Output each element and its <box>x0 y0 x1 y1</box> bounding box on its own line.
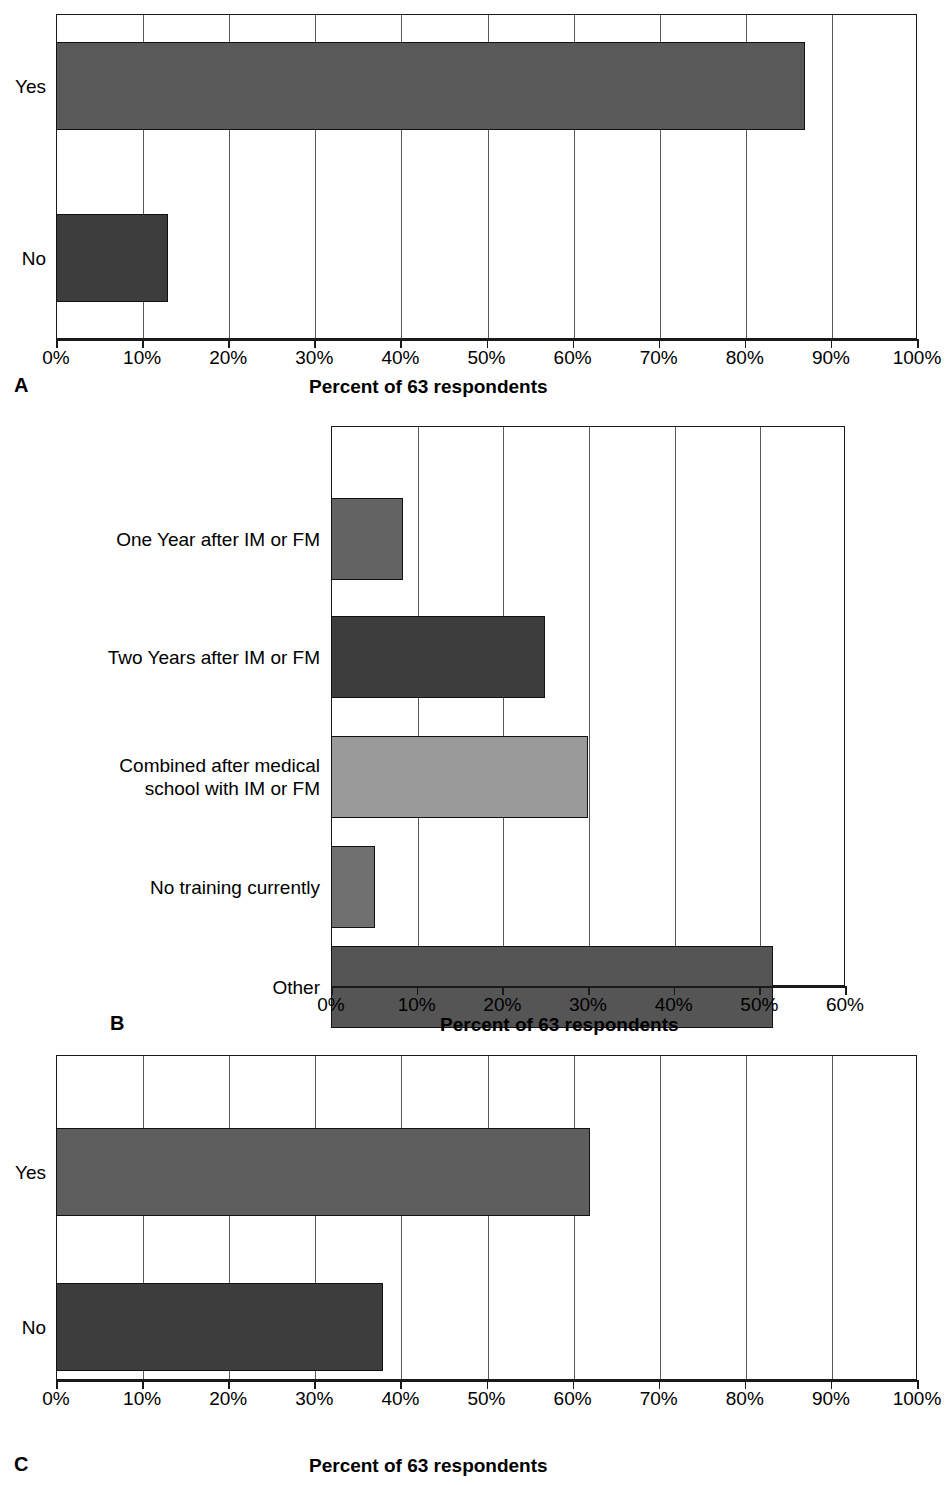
category-label: Other <box>60 976 320 999</box>
figure-bar-charts: YesNo 0%10%20%30%40%50%60%70%80%90%100% … <box>0 0 949 1485</box>
category-label: No <box>0 247 46 270</box>
x-axis-tick-label: 0% <box>317 994 344 1016</box>
bar <box>331 736 588 818</box>
x-axis-tick-label: 0% <box>42 1388 69 1410</box>
gridline <box>488 1056 489 1379</box>
x-axis-tick-label: 100% <box>893 347 942 369</box>
panel-letter-a: A <box>14 374 28 397</box>
x-axis-tick-label: 10% <box>123 1388 161 1410</box>
x-axis-tick-label: 60% <box>826 994 864 1016</box>
x-axis-tick-label: 10% <box>398 994 436 1016</box>
x-axis-tick-label: 40% <box>655 994 693 1016</box>
gridline <box>589 427 590 985</box>
gridline <box>832 1056 833 1379</box>
x-axis-tick-label: 70% <box>640 1388 678 1410</box>
x-axis-tick-label: 70% <box>640 347 678 369</box>
panel-letter-c: C <box>14 1453 28 1476</box>
gridline <box>660 1056 661 1379</box>
bar <box>56 42 805 130</box>
gridline <box>401 1056 402 1379</box>
x-axis-tick-label: 0% <box>42 347 69 369</box>
x-axis-tick-label: 20% <box>209 1388 247 1410</box>
x-axis-tick-label: 60% <box>554 1388 592 1410</box>
x-axis-tick-label: 30% <box>295 1388 333 1410</box>
x-axis-tick-label: 50% <box>467 347 505 369</box>
plot-area-b <box>331 426 845 986</box>
bar <box>56 1283 383 1371</box>
category-label: One Year after IM or FM <box>60 528 320 551</box>
gridline <box>746 1056 747 1379</box>
x-axis-tick-label: 50% <box>740 994 778 1016</box>
category-label: Two Years after IM or FM <box>60 646 320 669</box>
x-axis-tick-label: 60% <box>554 347 592 369</box>
x-axis-tick-label: 80% <box>726 347 764 369</box>
gridline <box>503 427 504 985</box>
category-label: Combined after medical school with IM or… <box>60 754 320 800</box>
axis-title-c: Percent of 63 respondents <box>309 1455 548 1477</box>
gridline <box>675 427 676 985</box>
x-axis-tick-label: 10% <box>123 347 161 369</box>
gridline <box>760 427 761 985</box>
bar <box>331 846 375 928</box>
panel-c: YesNo 0%10%20%30%40%50%60%70%80%90%100% … <box>0 1030 949 1485</box>
x-axis-tick-label: 40% <box>381 347 419 369</box>
x-axis-tick-label: 30% <box>295 347 333 369</box>
x-axis-tick-label: 50% <box>467 1388 505 1410</box>
category-label: No training currently <box>60 876 320 899</box>
panel-b: One Year after IM or FMTwo Years after I… <box>0 400 949 1030</box>
bar <box>56 1128 590 1216</box>
x-axis-tick-label: 20% <box>483 994 521 1016</box>
x-axis-tick-label: 100% <box>893 1388 942 1410</box>
bar <box>331 616 545 698</box>
axis-title-a: Percent of 63 respondents <box>309 376 548 398</box>
category-label: No <box>0 1316 46 1339</box>
x-axis-tick-label: 90% <box>812 1388 850 1410</box>
x-axis-tick-label: 40% <box>381 1388 419 1410</box>
gridline <box>574 1056 575 1379</box>
gridline <box>832 15 833 338</box>
bar <box>56 214 168 302</box>
x-axis-tick-label: 30% <box>569 994 607 1016</box>
bar <box>331 498 403 580</box>
x-axis-tick-label: 80% <box>726 1388 764 1410</box>
category-label: Yes <box>0 1161 46 1184</box>
panel-a: YesNo 0%10%20%30%40%50%60%70%80%90%100% … <box>0 0 949 400</box>
category-label: Yes <box>0 75 46 98</box>
x-axis-tick-label: 20% <box>209 347 247 369</box>
gridline <box>418 427 419 985</box>
x-axis-tick-label: 90% <box>812 347 850 369</box>
